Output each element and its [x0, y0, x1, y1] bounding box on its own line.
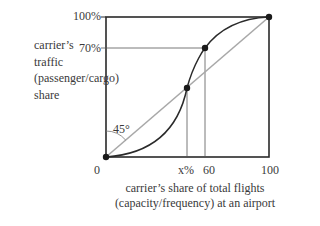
- x-tick-100: 100: [261, 163, 279, 177]
- point-intersection: [184, 85, 190, 91]
- x-tick-0: 0: [94, 163, 100, 177]
- x-tick-60: 60: [203, 163, 215, 177]
- y-axis-label-line-1: carrier’s: [34, 37, 119, 54]
- point-60-70: [202, 45, 208, 51]
- point-100-100: [266, 14, 272, 20]
- y-axis-label-line-3: (passenger/cargo): [34, 70, 119, 87]
- point-origin: [103, 154, 109, 160]
- x-axis-label: carrier’s share of total flights (capaci…: [108, 181, 282, 211]
- y-axis-label-line-4: share: [34, 87, 119, 104]
- x-tick-x-percent: x%: [178, 163, 194, 177]
- y-axis-label-line-2: traffic: [34, 54, 119, 71]
- angle-label: 45°: [113, 122, 130, 136]
- x-axis-label-line-1: carrier’s share of total flights: [108, 181, 282, 196]
- y-axis-label: carrier’s traffic (passenger/cargo) shar…: [34, 37, 119, 103]
- y-tick-100: 100%: [73, 9, 101, 23]
- x-axis-label-line-2: (capacity/frequency) at an airport: [108, 196, 282, 211]
